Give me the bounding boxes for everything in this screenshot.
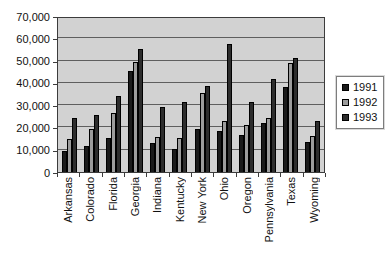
bar-group-new-york <box>191 18 213 172</box>
bar-1993 <box>138 49 143 172</box>
x-tick-label: Colorado <box>84 177 96 222</box>
bar-group-arkansas <box>58 18 80 172</box>
x-tick-label: Pennsylvania <box>263 177 275 242</box>
x-label-cell: Texas <box>280 177 302 241</box>
y-tick-label: 0 <box>4 168 50 179</box>
legend: 199119921993 <box>336 76 384 129</box>
bar-1993 <box>227 44 232 172</box>
legend-swatch-icon <box>342 99 349 106</box>
bar-group-kentucky <box>169 18 191 172</box>
bar-1993 <box>160 107 165 172</box>
x-tick-label: Oregon <box>241 177 253 214</box>
y-tick-mark <box>53 151 57 152</box>
x-label-cell: Pennsylvania <box>258 177 280 241</box>
bar-1993 <box>205 86 210 172</box>
legend-swatch-icon <box>342 84 349 91</box>
legend-entry-1991: 1991 <box>342 82 377 93</box>
x-tick-label: Texas <box>285 177 297 206</box>
legend-label: 1991 <box>353 82 377 93</box>
y-tick-label: 70,000 <box>4 12 50 23</box>
bar-1993 <box>116 96 121 172</box>
plot-area <box>57 17 325 173</box>
y-tick-mark <box>53 128 57 129</box>
y-tick-label: 30,000 <box>4 101 50 112</box>
legend-entry-1992: 1992 <box>342 97 377 108</box>
bar-group-indiana <box>147 18 169 172</box>
x-label-cell: Ohio <box>213 177 235 241</box>
bar-group-texas <box>280 18 302 172</box>
bar-group-ohio <box>213 18 235 172</box>
x-tick-label: Arkansas <box>62 177 74 223</box>
y-tick-mark <box>53 17 57 18</box>
bar-1993 <box>271 79 276 173</box>
x-tick-label: Wyoming <box>308 177 320 223</box>
bar-1993 <box>94 115 99 172</box>
x-tick-label: Florida <box>107 177 119 211</box>
x-label-cell: Georgia <box>124 177 146 241</box>
legend-label: 1992 <box>353 97 377 108</box>
y-tick-mark <box>53 39 57 40</box>
y-tick-label: 60,000 <box>4 34 50 45</box>
y-tick-mark <box>53 106 57 107</box>
x-tick-mark <box>325 173 326 177</box>
x-label-cell: Arkansas <box>57 177 79 241</box>
bar-group-oregon <box>235 18 257 172</box>
x-tick-label: Ohio <box>218 177 230 200</box>
y-tick-label: 20,000 <box>4 123 50 134</box>
bar-groups <box>58 18 324 172</box>
x-tick-label: New York <box>196 177 208 223</box>
y-tick-label: 10,000 <box>4 145 50 156</box>
x-label-cell: Wyoming <box>303 177 325 241</box>
y-tick-mark <box>53 62 57 63</box>
bar-group-pennsylvania <box>258 18 280 172</box>
x-tick-label: Kentucky <box>174 177 186 222</box>
bar-1993 <box>249 102 254 172</box>
x-label-cell: Kentucky <box>169 177 191 241</box>
x-label-cell: Colorado <box>79 177 101 241</box>
legend-swatch-icon <box>342 114 349 121</box>
legend-entry-1993: 1993 <box>342 112 377 123</box>
bar-1993 <box>293 58 298 172</box>
x-label-cell: New York <box>191 177 213 241</box>
x-label-cell: Oregon <box>236 177 258 241</box>
bar-1993 <box>72 118 77 172</box>
bar-group-florida <box>102 18 124 172</box>
bar-group-wyoming <box>302 18 324 172</box>
bar-1993 <box>315 121 320 172</box>
y-tick-label: 50,000 <box>4 56 50 67</box>
bar-chart: 70,00060,00050,00040,00030,00020,00010,0… <box>0 0 391 263</box>
bar-group-georgia <box>125 18 147 172</box>
bar-group-colorado <box>80 18 102 172</box>
x-tick-label: Georgia <box>129 177 141 216</box>
x-label-cell: Indiana <box>146 177 168 241</box>
legend-label: 1993 <box>353 112 377 123</box>
x-axis-labels: ArkansasColoradoFloridaGeorgiaIndianaKen… <box>57 177 325 241</box>
x-label-cell: Florida <box>102 177 124 241</box>
y-tick-mark <box>53 84 57 85</box>
x-tick-label: Indiana <box>151 177 163 213</box>
bar-1993 <box>182 102 187 172</box>
y-tick-label: 40,000 <box>4 78 50 89</box>
